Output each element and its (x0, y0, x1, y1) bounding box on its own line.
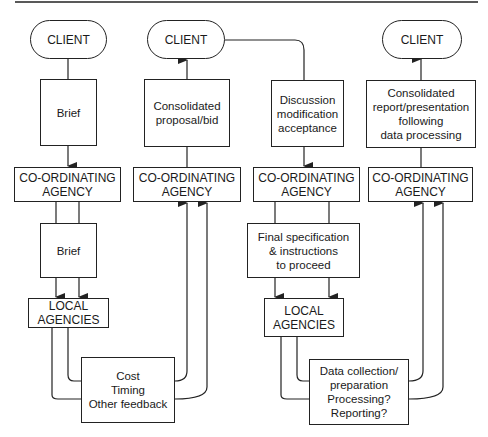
feedback-label: Cost Timing Other feedback (89, 369, 168, 411)
local-agencies-node-commission: LOCAL AGENCIES (264, 298, 344, 337)
brief-label: Brief (57, 106, 81, 120)
coordinating-agency-node-briefing: CO-ORDINATING AGENCY (14, 167, 121, 202)
coordinating-agency-label: CO-ORDINATING AGENCY (19, 171, 115, 199)
connector-layer (0, 0, 488, 437)
client-label: CLIENT (401, 33, 444, 47)
coordinating-agency-node-proposal: CO-ORDINATING AGENCY (133, 167, 241, 202)
coordinating-agency-label: CO-ORDINATING AGENCY (372, 171, 468, 199)
coordinating-agency-label: CO-ORDINATING AGENCY (139, 171, 235, 199)
client-node-reporting: CLIENT (382, 20, 462, 59)
data-collection-label: Data collection/ preparation Processing?… (320, 364, 399, 420)
local-agencies-label: LOCAL AGENCIES (273, 304, 335, 332)
report-box: Consolidated report/presentation followi… (366, 80, 476, 148)
brief-box-top: Brief (40, 79, 97, 146)
client-label: CLIENT (47, 33, 90, 47)
local-agencies-node-briefing: LOCAL AGENCIES (28, 298, 109, 328)
brief-box-bottom: Brief (40, 223, 97, 278)
client-label: CLIENT (165, 33, 208, 47)
client-node-briefing: CLIENT (30, 20, 107, 59)
local-agencies-label: LOCAL AGENCIES (37, 299, 99, 327)
final-spec-box: Final specification & instructions to pr… (247, 223, 360, 278)
feedback-box: Cost Timing Other feedback (81, 357, 175, 423)
data-collection-box: Data collection/ preparation Processing?… (309, 359, 409, 425)
discussion-box: Discussion modification acceptance (271, 80, 344, 147)
coordinating-agency-label: CO-ORDINATING AGENCY (258, 171, 354, 199)
discussion-label: Discussion modification acceptance (277, 93, 338, 135)
coordinating-agency-node-reporting: CO-ORDINATING AGENCY (368, 167, 473, 202)
proposal-box: Consolidated proposal/bid (144, 79, 230, 147)
coordinating-agency-node-commission: CO-ORDINATING AGENCY (253, 167, 360, 202)
client-node-proposal: CLIENT (147, 20, 225, 59)
final-spec-label: Final specification & instructions to pr… (258, 230, 349, 272)
proposal-label: Consolidated proposal/bid (153, 99, 220, 127)
report-label: Consolidated report/presentation followi… (373, 86, 470, 142)
brief-label: Brief (57, 244, 81, 258)
